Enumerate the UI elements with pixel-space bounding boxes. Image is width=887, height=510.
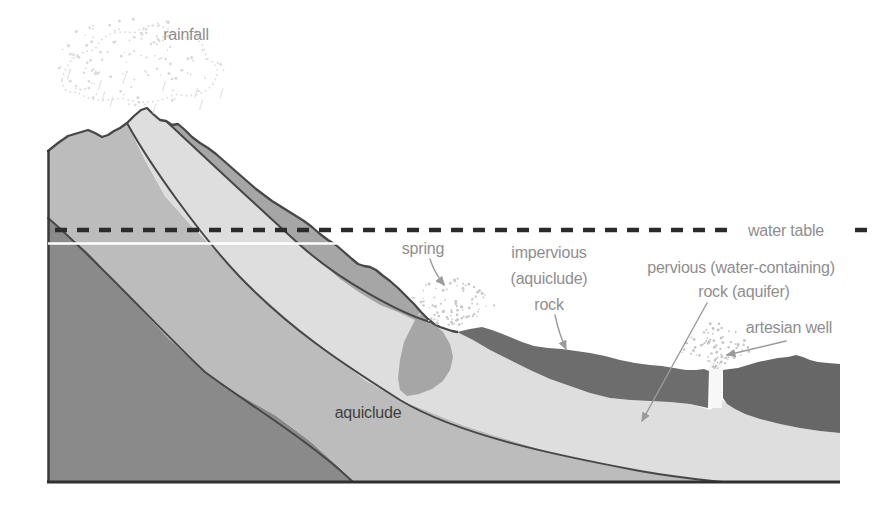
label-pervious-line2: rock (aquifer)	[698, 283, 789, 300]
label-artesian-well: artesian well	[746, 319, 832, 336]
impervious-leader-line	[555, 315, 566, 349]
well-shaft	[710, 362, 723, 408]
label-spring: spring	[402, 240, 444, 257]
label-water-table: water table	[747, 222, 824, 239]
rain-streaks	[67, 69, 223, 113]
label-impervious-line1: impervious	[511, 244, 587, 261]
figure-canvas: rainfall spring impervious (aquiclude) r…	[0, 0, 887, 510]
label-aquiclude: aquiclude	[335, 404, 402, 421]
label-rainfall: rainfall	[163, 26, 209, 43]
label-pervious-line1: pervious (water-containing)	[647, 259, 835, 276]
label-impervious-line3: rock	[534, 296, 565, 313]
label-impervious-line2: (aquiclude)	[511, 270, 588, 287]
artesian-well-diagram: rainfall spring impervious (aquiclude) r…	[0, 0, 887, 510]
